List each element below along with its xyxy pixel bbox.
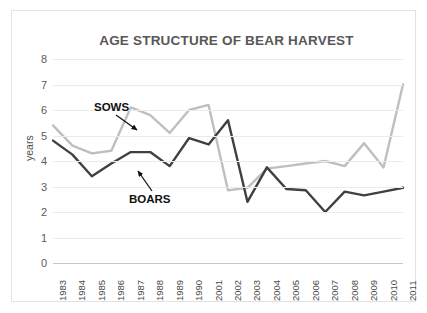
x-tick-1985: 1985 xyxy=(96,280,107,301)
x-tick-2004: 2004 xyxy=(271,280,282,301)
y-tick-2: 2 xyxy=(41,206,47,218)
x-tick-2001: 2001 xyxy=(213,280,224,301)
x-tick-2009: 2009 xyxy=(368,280,379,301)
y-tick-4: 4 xyxy=(41,155,47,167)
x-tick-1988: 1988 xyxy=(154,280,165,301)
x-tick-1989: 1989 xyxy=(174,280,185,301)
y-tick-7: 7 xyxy=(41,79,47,91)
x-tick-2010: 2010 xyxy=(388,280,399,301)
gridline-3 xyxy=(53,187,403,188)
gridline-8 xyxy=(53,59,403,60)
gridline-5 xyxy=(53,136,403,137)
x-axis-tick-labels: 1983198419851986198719881989199020012002… xyxy=(53,265,403,305)
x-tick-1987: 1987 xyxy=(135,280,146,301)
x-axis-line xyxy=(53,263,403,264)
x-tick-1990: 1990 xyxy=(193,280,204,301)
chart-title: AGE STRUCTURE OF BEAR HARVEST xyxy=(12,33,415,48)
x-tick-2008: 2008 xyxy=(349,280,360,301)
y-tick-8: 8 xyxy=(41,53,47,65)
annotation-label-sows: SOWS xyxy=(94,101,129,113)
chart-card: AGE STRUCTURE OF BEAR HARVEST years 8765… xyxy=(11,10,416,302)
y-tick-3: 3 xyxy=(41,181,47,193)
x-tick-2006: 2006 xyxy=(310,280,321,301)
y-tick-6: 6 xyxy=(41,104,47,116)
x-tick-2005: 2005 xyxy=(290,280,301,301)
gridline-7 xyxy=(53,85,403,86)
plot-area: 876543210 xyxy=(53,59,403,263)
x-tick-2011: 2011 xyxy=(407,281,418,301)
x-tick-1984: 1984 xyxy=(76,280,87,301)
y-axis-title: years xyxy=(23,135,35,161)
annotation-label-boars: BOARS xyxy=(129,193,171,205)
gridline-2 xyxy=(53,212,403,213)
x-tick-2002: 2002 xyxy=(232,280,243,301)
x-tick-2007: 2007 xyxy=(329,280,340,301)
x-tick-1983: 1983 xyxy=(57,280,68,301)
x-tick-2003: 2003 xyxy=(251,280,262,301)
gridline-1 xyxy=(53,238,403,239)
y-tick-0: 0 xyxy=(41,257,47,269)
y-tick-5: 5 xyxy=(41,130,47,142)
y-tick-1: 1 xyxy=(41,232,47,244)
gridline-4 xyxy=(53,161,403,162)
series-line-boars xyxy=(53,120,403,212)
x-tick-1986: 1986 xyxy=(115,280,126,301)
